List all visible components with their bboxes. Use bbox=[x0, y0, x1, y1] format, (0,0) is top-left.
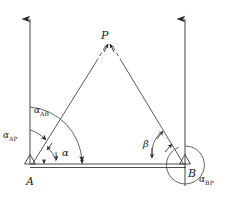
point-label-b: B bbox=[188, 168, 196, 179]
bearing-label-alpha-ab: αAB bbox=[34, 106, 49, 117]
alpha-ab-subscript: AB bbox=[40, 110, 49, 117]
beta-arrow-inner-bp bbox=[165, 144, 172, 152]
segment-ap-dashed bbox=[96, 47, 105, 62]
angle-label-alpha: α bbox=[62, 148, 69, 158]
point-label-p: P bbox=[101, 30, 108, 41]
point-label-a: A bbox=[26, 176, 34, 187]
arc-angle-beta bbox=[152, 131, 172, 158]
alpha-angle-arc bbox=[48, 148, 56, 161]
angle-label-beta: β bbox=[143, 139, 149, 149]
triangulation-diagram: P A B αAB αAP αBP α β bbox=[0, 0, 226, 199]
arc-angle-alpha bbox=[47, 143, 57, 161]
alpha-bp-subscript: BP bbox=[205, 179, 214, 186]
baseline-direction-ticks bbox=[44, 159, 82, 164]
baseline-ab bbox=[30, 164, 186, 168]
segment-bp-dashed bbox=[113, 47, 122, 62]
arc-alpha-ap bbox=[30, 130, 46, 140]
line-a-to-p bbox=[33, 44, 108, 163]
alpha-ap-sweep-arc bbox=[30, 130, 46, 140]
bearing-label-alpha-bp: αBP bbox=[199, 175, 214, 186]
alpha-arrow-to-ab bbox=[56, 152, 57, 160]
bearing-label-alpha-ap: αAP bbox=[3, 131, 18, 142]
alpha-ap-subscript: AP bbox=[9, 135, 18, 142]
